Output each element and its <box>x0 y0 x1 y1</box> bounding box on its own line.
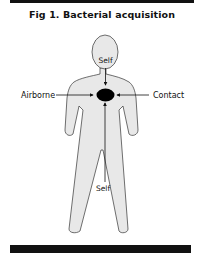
label-contact: Contact <box>153 91 184 100</box>
label-airborne: Airborne <box>21 91 55 100</box>
target-oval <box>97 89 115 102</box>
label-self-bottom: Self <box>96 184 110 193</box>
body-diagram: Self Airborne Contact Self <box>0 0 204 256</box>
label-self-top: Self <box>98 56 112 65</box>
bottom-rule <box>10 245 191 253</box>
